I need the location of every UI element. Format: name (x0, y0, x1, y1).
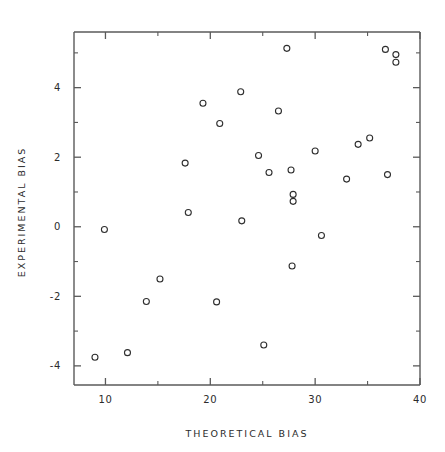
y-axis-title: EXPERIMENTAL BIAS (16, 147, 27, 278)
x-tick-label: 10 (98, 394, 112, 405)
y-tick-label: -4 (50, 360, 61, 371)
x-tick-label: 40 (413, 394, 427, 405)
x-axis-title: THEORETICAL BIAS (185, 428, 309, 439)
x-tick-label: 20 (203, 394, 217, 405)
x-tick-label: 30 (308, 394, 322, 405)
scatter-plot-figure: 10203040 420-2-4 THEORETICAL BIAS EXPERI… (0, 0, 445, 452)
y-tick-label: 4 (54, 82, 61, 93)
y-tick-label: 2 (54, 152, 61, 163)
y-tick-label: -2 (50, 291, 61, 302)
y-tick-label: 0 (54, 221, 61, 232)
figure-background (0, 0, 445, 452)
